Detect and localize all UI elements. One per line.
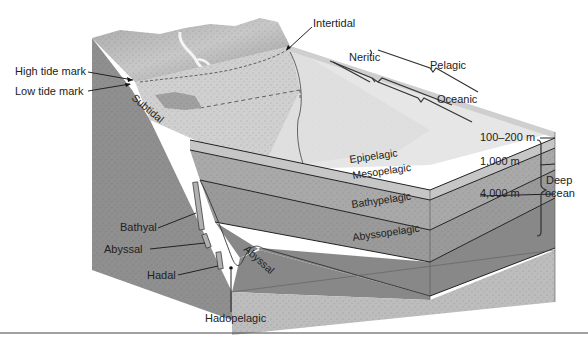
label-oceanic: Oceanic (437, 93, 478, 105)
label-pelagic: Pelagic (430, 59, 467, 71)
label-hadal: Hadal (147, 269, 176, 281)
label-depth-1000: 1,000 m (480, 155, 520, 167)
label-neritic: Neritic (349, 51, 381, 63)
label-bathyal: Bathyal (120, 221, 157, 233)
label-high-tide-mark: High tide mark (15, 65, 86, 77)
ocean-zones-diagram: High tide mark Low tide mark Subtidal In… (0, 0, 588, 337)
label-deep: Deep (546, 174, 572, 186)
water-top (262, 46, 555, 170)
label-depth-100-200: 100–200 m (480, 131, 535, 143)
label-low-tide-mark: Low tide mark (15, 85, 84, 97)
label-abyssal: Abyssal (104, 243, 143, 255)
label-intertidal: Intertidal (313, 17, 355, 29)
label-hadopelagic: Hadopelagic (205, 312, 267, 324)
label-ocean: ocean (545, 187, 575, 199)
label-depth-4000: 4,000 m (480, 187, 520, 199)
